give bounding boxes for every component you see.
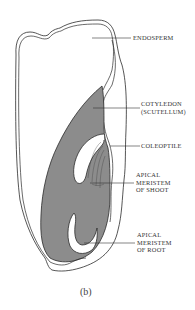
label-line: OF SHOOT — [136, 186, 171, 194]
grain-section-diagram — [0, 0, 195, 310]
label-line: COLEOPTILE — [141, 142, 182, 150]
label-line: MERISTEM — [137, 239, 172, 247]
label-line: ENDOSPERM — [133, 34, 174, 42]
label-line: (SCUTELLUM) — [141, 108, 186, 116]
label-line: OF ROOT — [137, 246, 172, 254]
label-line: COTYLEDON — [141, 100, 186, 108]
label-line: APICAL — [137, 231, 172, 239]
label-apical-meristem-shoot: APICAL MERISTEM OF SHOOT — [136, 171, 171, 194]
label-endosperm: ENDOSPERM — [133, 34, 174, 42]
label-line: MERISTEM — [136, 179, 171, 187]
label-apical-meristem-root: APICAL MERISTEM OF ROOT — [137, 231, 172, 254]
label-cotyledon: COTYLEDON (SCUTELLUM) — [141, 100, 186, 115]
label-coleoptile: COLEOPTILE — [141, 142, 182, 150]
figure-caption: (b) — [80, 286, 92, 297]
label-line: APICAL — [136, 171, 171, 179]
